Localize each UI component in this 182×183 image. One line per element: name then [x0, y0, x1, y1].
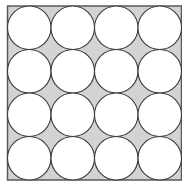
- circle: [51, 50, 95, 94]
- circle: [51, 6, 95, 50]
- circle: [8, 50, 52, 94]
- circle: [138, 50, 182, 94]
- circle: [138, 6, 182, 50]
- circle: [138, 137, 182, 181]
- circle: [95, 137, 139, 181]
- circle: [51, 137, 95, 181]
- circle: [8, 93, 52, 137]
- circle: [95, 50, 139, 94]
- circle: [95, 6, 139, 50]
- circle: [138, 93, 182, 137]
- circle: [8, 137, 52, 181]
- circle: [51, 93, 95, 137]
- circle: [8, 6, 52, 50]
- circles-in-square-diagram: [0, 0, 182, 183]
- circle: [95, 93, 139, 137]
